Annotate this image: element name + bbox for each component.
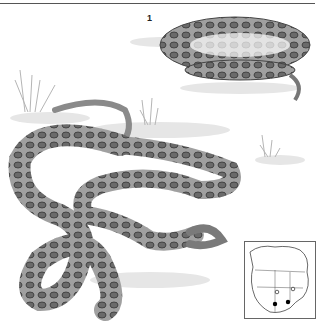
- north-america-map-icon: [245, 242, 315, 318]
- open-circle-marker: [291, 287, 295, 291]
- range-map: [244, 241, 316, 319]
- open-circle-marker: [275, 290, 279, 294]
- filled-dot-marker: [273, 302, 277, 306]
- filled-dot-marker: [286, 300, 290, 304]
